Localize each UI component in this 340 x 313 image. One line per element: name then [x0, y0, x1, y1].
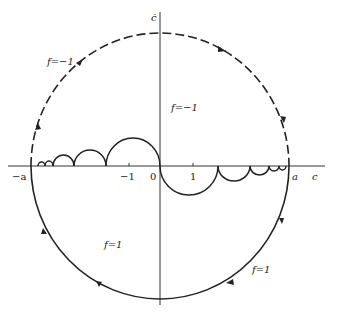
tick-label-neg-one: −1 — [120, 171, 135, 182]
phase-plane-diagram: ċ c −a −1 0 1 a f=−1 f=−1 f=1 f=1 — [0, 0, 340, 313]
tick-label-a: a — [292, 171, 298, 182]
arrow-icon — [76, 59, 83, 66]
left-trajectory-arcs — [38, 138, 160, 166]
y-axis-label: ċ — [151, 12, 157, 23]
tick-label-neg-a: −a — [12, 171, 26, 182]
right-trajectory-arcs — [160, 166, 286, 195]
arrow-icon — [35, 123, 41, 130]
arrow-icon — [279, 218, 284, 224]
upper-interior-label: f=−1 — [170, 102, 198, 113]
lower-arc-label: f=1 — [251, 264, 270, 275]
lower-interior-label: f=1 — [103, 239, 122, 250]
arrow-icon — [218, 46, 226, 52]
x-axis-label: c — [312, 171, 318, 182]
tick-label-one: 1 — [190, 171, 196, 182]
tick-label-zero: 0 — [150, 171, 156, 182]
upper-arc-label: f=−1 — [46, 56, 74, 67]
